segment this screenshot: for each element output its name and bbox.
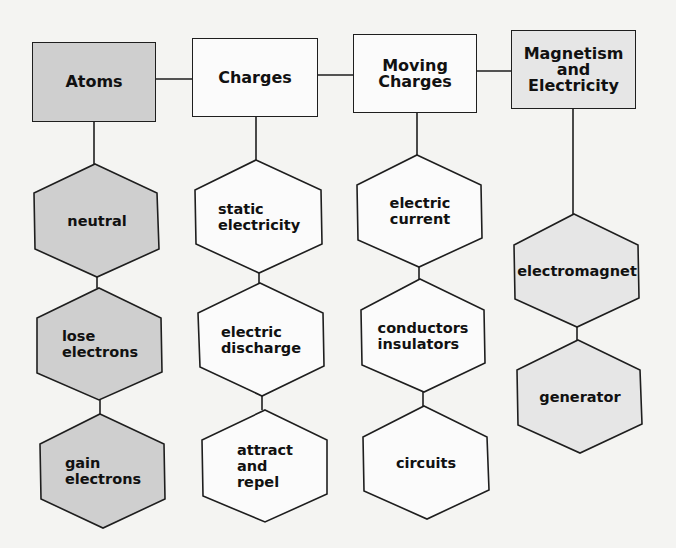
- hex-label-neutral: neutral: [34, 164, 160, 277]
- concept-box-label: Moving Charges: [378, 58, 452, 90]
- hex-label-electric-current: electric current: [357, 155, 483, 267]
- hex-label-electric-discharge: electric discharge: [198, 283, 324, 396]
- hex-label-generator: generator: [517, 340, 643, 453]
- hex-label-static-electricity: static electricity: [195, 160, 323, 273]
- hex-label-gain-electrons: gain electrons: [40, 414, 166, 528]
- concept-box-label: Magnetism and Electricity: [524, 46, 624, 94]
- concept-box-atoms: Atoms: [32, 42, 156, 122]
- hex-label-lose-electrons: lose electrons: [37, 288, 163, 400]
- hex-label-attract-and-repel: attract and repel: [202, 410, 328, 522]
- hex-label-circuits: circuits: [363, 406, 489, 519]
- concept-box-magnetism-and-electricity: Magnetism and Electricity: [511, 30, 636, 109]
- hex-label-conductors-insulators: conductors insulators: [361, 279, 485, 392]
- concept-box-charges: Charges: [192, 38, 318, 117]
- hex-label-electromagnet: electromagnet: [514, 214, 640, 327]
- concept-box-label: Atoms: [65, 74, 122, 90]
- concept-box-label: Charges: [218, 70, 292, 86]
- concept-box-moving-charges: Moving Charges: [353, 34, 477, 113]
